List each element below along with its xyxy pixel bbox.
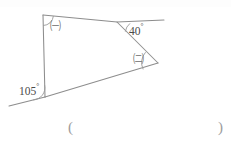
left-vertical-edge <box>43 15 45 97</box>
angle-label-40-degrees: 40° <box>129 24 144 37</box>
angle-label-105-degrees: 105° <box>19 84 39 97</box>
answer-close-paren: ) <box>218 120 223 135</box>
answer-blank-row: ( ) <box>0 116 231 142</box>
worksheet-figure-page: ㈠ 40° ㈡ 105° ( ) <box>0 0 231 152</box>
answer-open-paren: ( <box>68 120 73 135</box>
angle-105-value: 105 <box>19 85 36 97</box>
top-edge-ray <box>43 15 164 22</box>
angle-40-value: 40 <box>129 25 141 37</box>
angle-label-top-left: ㈠ <box>50 21 61 32</box>
degree-symbol-40: ° <box>141 22 144 31</box>
angle-label-right-lower: ㈡ <box>133 54 144 65</box>
degree-symbol-105: ° <box>36 82 39 91</box>
right-to-bottom-edge <box>45 63 158 97</box>
